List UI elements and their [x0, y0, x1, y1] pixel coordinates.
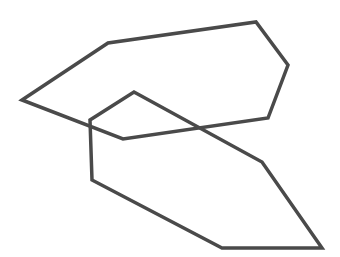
- lower-hexagon: [90, 92, 322, 248]
- upper-hexagon: [22, 22, 288, 139]
- overlapping-polygons-drawing: [0, 0, 340, 257]
- diagram-canvas: [0, 0, 340, 257]
